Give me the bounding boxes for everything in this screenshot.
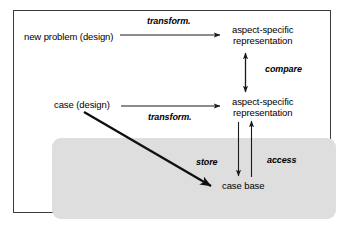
node-case-design: case (design) bbox=[54, 99, 110, 110]
node-aspect-bottom-line1: aspect-specific bbox=[232, 96, 293, 107]
node-new-problem: new problem (design) bbox=[24, 31, 113, 42]
node-aspect-top-line1: aspect-specific bbox=[232, 24, 293, 35]
node-aspect-specific-representation-bottom: aspect-specific representation bbox=[232, 96, 293, 118]
edge-label-transform-bottom: transform. bbox=[148, 112, 192, 122]
node-aspect-specific-representation-top: aspect-specific representation bbox=[232, 24, 293, 46]
edge-label-compare: compare bbox=[265, 64, 302, 74]
diagram-root: new problem (design) aspect-specific rep… bbox=[0, 0, 343, 226]
edge-label-transform-top: transform. bbox=[147, 16, 191, 26]
shaded-region-case-memory bbox=[52, 138, 336, 219]
node-aspect-top-line2: representation bbox=[232, 35, 293, 46]
node-aspect-bottom-line2: representation bbox=[232, 107, 293, 118]
node-case-base: case base bbox=[222, 180, 264, 191]
edge-label-access: access bbox=[267, 155, 296, 165]
edge-label-store: store bbox=[196, 157, 218, 167]
